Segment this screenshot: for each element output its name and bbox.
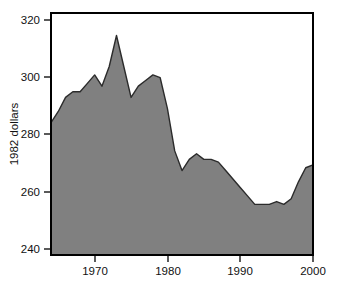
y-tick-label-320: 320 (21, 14, 40, 26)
x-tick-label-1980: 1980 (155, 265, 181, 277)
y-tick-label-240: 240 (21, 243, 40, 255)
y-tick-label-260: 260 (21, 186, 40, 198)
x-tick-label-1990: 1990 (227, 265, 253, 277)
x-tick-label-1970: 1970 (82, 265, 108, 277)
y-axis-title: 1982 dollars (8, 102, 20, 165)
x-axis-ticks (95, 255, 313, 262)
y-tick-label-300: 300 (21, 71, 40, 83)
x-tick-label-2000: 2000 (300, 265, 326, 277)
y-axis-ticks (44, 20, 51, 249)
area-chart: 320 300 280 260 240 1970 1980 1990 2000 … (0, 0, 339, 284)
chart-figure: 320 300 280 260 240 1970 1980 1990 2000 … (0, 0, 339, 284)
y-tick-label-280: 280 (21, 128, 40, 140)
